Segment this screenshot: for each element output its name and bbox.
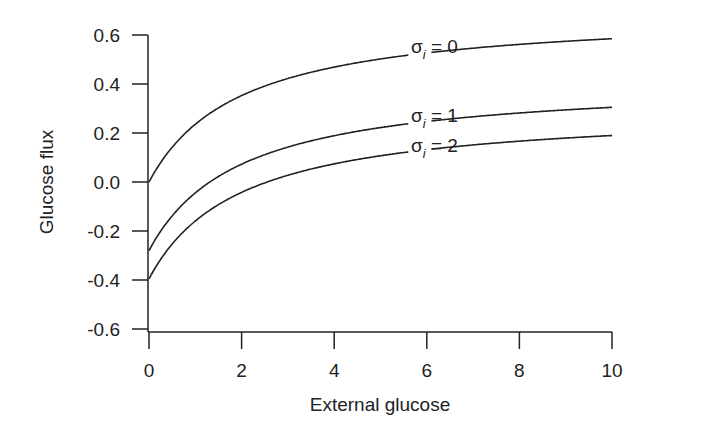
x-axis-label: External glucose	[310, 394, 450, 415]
curve-labels: σi = 0σi = 1σi = 2	[411, 36, 458, 161]
curve-label-sigma-2: σi = 2	[411, 135, 458, 161]
curve-label-sigma-0: σi = 0	[411, 36, 458, 62]
x-tick-label: 10	[601, 360, 622, 381]
x-tick-label: 2	[236, 360, 247, 381]
y-tick-label: 0.6	[94, 25, 120, 46]
y-axis-label: Glucose flux	[36, 129, 57, 234]
curves	[149, 39, 612, 279]
curve-sigma-1	[149, 124, 408, 251]
y-tick-label: -0.2	[87, 221, 120, 242]
curve-sigma-2	[149, 152, 408, 279]
y-tick-label: 0.2	[94, 123, 120, 144]
x-tick-label: 4	[329, 360, 340, 381]
x-tick-label: 8	[514, 360, 525, 381]
axes: 0.60.40.20.0-0.2-0.4-0.60246810	[87, 25, 622, 381]
curve-sigma-0-tail	[431, 39, 612, 53]
x-tick-label: 6	[422, 360, 433, 381]
curve-label-sigma-1: σi = 1	[411, 105, 458, 131]
x-tick-label: 0	[144, 360, 155, 381]
y-tick-label: 0.4	[94, 74, 121, 95]
y-tick-label: -0.6	[87, 319, 120, 340]
curve-sigma-2-tail	[431, 136, 612, 150]
chart-canvas: 0.60.40.20.0-0.2-0.4-0.60246810 σi = 0σi…	[0, 0, 703, 432]
y-tick-label: 0.0	[94, 172, 120, 193]
curve-sigma-0	[149, 55, 408, 182]
y-tick-label: -0.4	[87, 270, 120, 291]
curve-sigma-1-tail	[431, 107, 612, 121]
